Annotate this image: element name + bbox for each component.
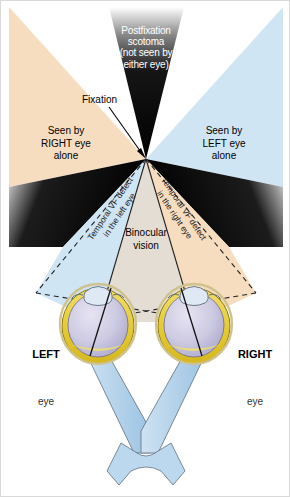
postfixation-scotoma-label: Postfixation scotoma (not seen by either… (104, 25, 188, 70)
seen-by-left-eye-alone-label: Seen by LEFT eye alone (185, 125, 263, 163)
eyeball-right (156, 284, 232, 364)
fixation-label: Fixation (82, 94, 117, 105)
right-eye-name: RIGHT (229, 348, 281, 360)
left-eye-label: LEFT eye (22, 312, 70, 443)
right-eye-sublabel: eye (229, 396, 281, 407)
binocular-vision-label: Binocular vision (108, 226, 184, 252)
seen-by-right-eye-alone-label: Seen by RIGHT eye alone (27, 125, 105, 163)
right-eye-label: RIGHT eye (229, 312, 281, 443)
left-eye-name: LEFT (22, 348, 70, 360)
left-eye-sublabel: eye (22, 396, 70, 407)
eyeball-left (60, 284, 136, 364)
visual-field-diagram: Postfixation scotoma (not seen by either… (0, 0, 290, 497)
